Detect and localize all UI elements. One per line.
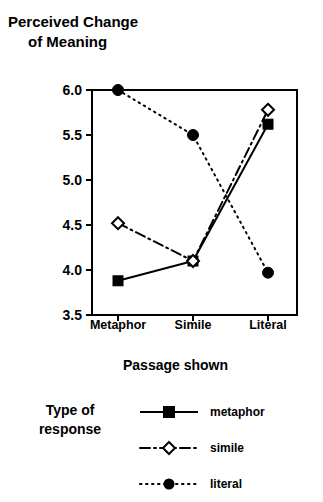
y-axis-tick-label: 5.0 <box>30 173 82 187</box>
data-point-literal-simile <box>188 130 199 141</box>
y-axis-tick-label: 4.0 <box>30 263 82 277</box>
legend-label-literal: literal <box>210 476 242 492</box>
filled-square-icon <box>138 399 200 425</box>
x-axis-tick-labels: MetaphorSimileLiteral <box>0 318 323 340</box>
x-axis-title: Passage shown <box>0 357 323 373</box>
legend-swatch-metaphor <box>138 399 200 425</box>
legend-label-simile: simile <box>210 440 244 456</box>
legend-title-line-1: Type of <box>10 401 130 420</box>
legend-item-metaphor: metaphor <box>138 399 318 425</box>
chart-plot-area: 6.05.55.04.54.03.5 MetaphorSimileLiteral <box>0 0 323 340</box>
legend-swatch-simile <box>138 435 200 461</box>
open-diamond-icon <box>138 435 200 461</box>
legend-label-metaphor: metaphor <box>210 404 265 420</box>
filled-circle-icon <box>138 471 200 497</box>
data-point-simile-literal <box>262 104 274 116</box>
legend-item-simile: simile <box>138 435 318 461</box>
y-axis-tick-label: 6.0 <box>30 83 82 97</box>
data-point-metaphor-metaphor <box>113 276 123 286</box>
data-point-literal-literal <box>263 267 274 278</box>
data-point-literal-metaphor <box>113 85 124 96</box>
chart-legend: Type of response metaphorsimileliteral <box>0 393 323 498</box>
legend-marker-simile <box>163 442 175 454</box>
data-point-simile-metaphor <box>112 217 124 229</box>
x-axis-tick-label-literal: Literal <box>223 318 313 332</box>
y-axis-tick-label: 5.5 <box>30 128 82 142</box>
y-axis-tick-labels: 6.05.55.04.54.03.5 <box>30 0 82 340</box>
legend-item-literal: literal <box>138 471 318 497</box>
data-point-metaphor-literal <box>263 119 273 129</box>
legend-marker-metaphor <box>163 406 175 418</box>
legend-title-line-2: response <box>10 420 130 439</box>
legend-marker-literal <box>164 479 175 490</box>
y-axis-tick-label: 4.5 <box>30 218 82 232</box>
series-line-literal <box>118 90 268 273</box>
legend-swatch-literal <box>138 471 200 497</box>
legend-title: Type of response <box>10 401 130 439</box>
